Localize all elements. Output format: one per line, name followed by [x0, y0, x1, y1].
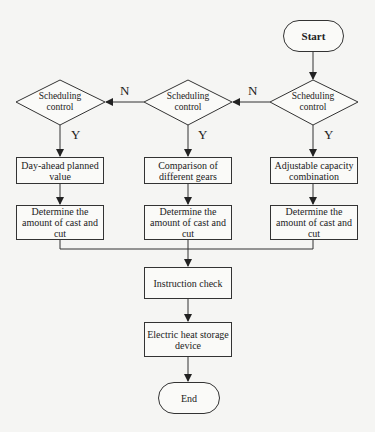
method-box-label: Day-ahead planned value — [17, 160, 103, 182]
decision-left: Scheduling control — [25, 91, 95, 113]
end-label: End — [181, 393, 197, 404]
end-node: End — [158, 382, 220, 414]
start-node: Start — [283, 20, 344, 52]
no-label-middle: N — [120, 83, 129, 99]
decision-left-line2: control — [25, 102, 95, 113]
method-box-gears: Comparison of different gears — [144, 157, 232, 184]
edge-merge-left — [60, 240, 188, 249]
instruction-check-box: Instruction check — [144, 267, 232, 299]
decision-middle-line2: control — [153, 102, 223, 113]
storage-device-label: Electric heat storage device — [145, 329, 231, 351]
decision-right: Scheduling control — [278, 91, 348, 113]
determine-box-left: Determine the amount of cast and cut — [16, 205, 104, 240]
yes-label-left: Y — [71, 127, 80, 143]
decision-middle: Scheduling control — [153, 91, 223, 113]
determine-box-middle: Determine the amount of cast and cut — [144, 205, 232, 240]
decision-right-line1: Scheduling — [278, 91, 348, 102]
start-label: Start — [302, 31, 326, 42]
yes-label-right: Y — [324, 127, 333, 143]
decision-middle-line1: Scheduling — [153, 91, 223, 102]
determine-box-label: Determine the amount of cast and cut — [271, 206, 357, 239]
method-box-label: Comparison of different gears — [145, 160, 231, 182]
decision-right-line2: control — [278, 102, 348, 113]
storage-device-box: Electric heat storage device — [144, 322, 232, 357]
decision-left-line1: Scheduling — [25, 91, 95, 102]
method-box-day-ahead: Day-ahead planned value — [16, 157, 104, 184]
determine-box-right: Determine the amount of cast and cut — [270, 205, 358, 240]
edge-merge-right — [188, 240, 313, 249]
instruction-check-label: Instruction check — [153, 278, 222, 289]
determine-box-label: Determine the amount of cast and cut — [145, 206, 231, 239]
yes-label-middle: Y — [198, 127, 207, 143]
determine-box-label: Determine the amount of cast and cut — [17, 206, 103, 239]
no-label-right: N — [248, 83, 257, 99]
method-box-capacity: Adjustable capacity combination — [270, 157, 358, 184]
method-box-label: Adjustable capacity combination — [271, 160, 357, 182]
